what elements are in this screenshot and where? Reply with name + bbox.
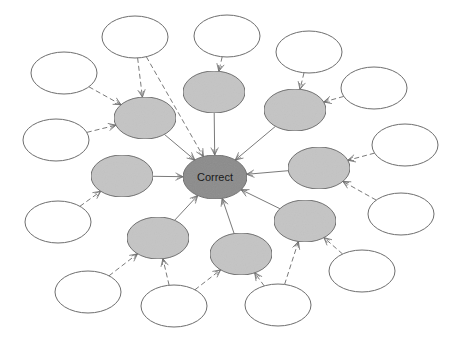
edge-o12-to-m7 xyxy=(163,259,169,286)
edge-m1-to-center xyxy=(164,134,194,160)
edge-m7-to-center xyxy=(175,196,198,221)
mid-node-m4[interactable] xyxy=(91,155,153,197)
mid-node-m1[interactable] xyxy=(114,97,176,139)
edge-o11-to-m7 xyxy=(109,254,138,276)
outer-node-o12[interactable] xyxy=(141,285,207,327)
edge-m3-to-center xyxy=(235,126,275,160)
concept-map-diagram: Correct xyxy=(0,0,463,344)
edge-o10-to-m6 xyxy=(324,238,343,254)
outer-node-o11[interactable] xyxy=(55,271,121,313)
mid-node-m6[interactable] xyxy=(274,200,336,242)
center-node-label: Correct xyxy=(197,171,233,183)
outer-node-o9[interactable] xyxy=(25,201,91,243)
edge-o3-to-m3 xyxy=(300,73,304,90)
outer-node-o13[interactable] xyxy=(245,284,311,326)
outer-node-o2[interactable] xyxy=(194,15,260,57)
edge-m8-to-center xyxy=(222,198,234,233)
edge-o9-to-m4 xyxy=(80,191,101,206)
edge-o6-to-m1 xyxy=(87,125,116,132)
mid-node-m3[interactable] xyxy=(264,89,326,131)
outer-node-o8[interactable] xyxy=(368,193,434,235)
mid-node-m8[interactable] xyxy=(210,233,272,275)
edge-o1-to-m1 xyxy=(138,58,143,97)
edge-m2-to-center xyxy=(214,113,215,155)
edge-o13-to-m6 xyxy=(285,242,299,285)
outer-node-o4[interactable] xyxy=(341,67,407,109)
mid-node-m7[interactable] xyxy=(127,217,189,259)
edge-o4-to-m3 xyxy=(324,96,344,102)
edge-o13-to-m8 xyxy=(255,273,265,286)
outer-node-o5[interactable] xyxy=(31,52,97,94)
outer-node-o1[interactable] xyxy=(102,16,168,58)
edge-m6-to-center xyxy=(241,190,280,209)
edge-o5-to-m1 xyxy=(89,87,121,105)
outer-node-o3[interactable] xyxy=(276,31,342,73)
outer-node-o6[interactable] xyxy=(23,119,89,161)
edge-m5-to-center xyxy=(247,171,289,175)
edge-o12-to-m8 xyxy=(195,270,221,290)
edge-o2-to-m2 xyxy=(219,57,222,72)
edge-o8-to-m5 xyxy=(343,181,376,200)
outer-node-o7[interactable] xyxy=(372,124,438,166)
edge-o7-to-m5 xyxy=(348,153,375,160)
mid-node-m2[interactable] xyxy=(183,71,245,113)
outer-node-o10[interactable] xyxy=(329,250,395,292)
mid-node-m5[interactable] xyxy=(288,147,350,189)
